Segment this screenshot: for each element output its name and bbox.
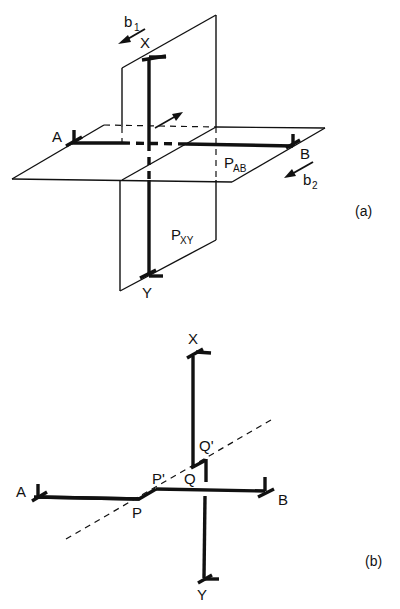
label-b1: b [124, 13, 132, 30]
figure-b: X Y A B P P' Q Q' (b) [16, 330, 382, 603]
arrow-normal-icon [155, 112, 183, 128]
label-x: X [188, 330, 198, 347]
label-b1-sub: 1 [134, 22, 140, 33]
label-y: Y [142, 284, 152, 301]
label-q-prime: Q' [199, 437, 214, 454]
label-a: A [52, 128, 62, 145]
label-p: P [132, 504, 142, 521]
label-b: B [278, 491, 288, 508]
label-b2-sub: 2 [312, 180, 318, 191]
label-x: X [140, 34, 150, 51]
label-a: A [16, 483, 26, 500]
line-y-segment [198, 496, 219, 583]
figure-a: X Y A B b 1 b 2 P AB P XY (a) [12, 13, 372, 301]
dashed-line [66, 420, 271, 539]
caption-b: (b) [365, 553, 382, 569]
label-pxy-sub: XY [180, 235, 194, 246]
line-x-segment [187, 349, 211, 482]
diagram-canvas: X Y A B b 1 b 2 P AB P XY (a) [0, 0, 400, 609]
label-pab-sub: AB [233, 163, 247, 174]
label-y: Y [197, 586, 207, 603]
label-p-prime: P' [152, 470, 165, 487]
label-b2: b [303, 171, 311, 188]
plane-pxy [120, 15, 216, 291]
label-q: Q [184, 470, 196, 487]
line-ab [66, 130, 300, 148]
caption-a: (a) [355, 203, 372, 219]
label-b: B [300, 145, 310, 162]
